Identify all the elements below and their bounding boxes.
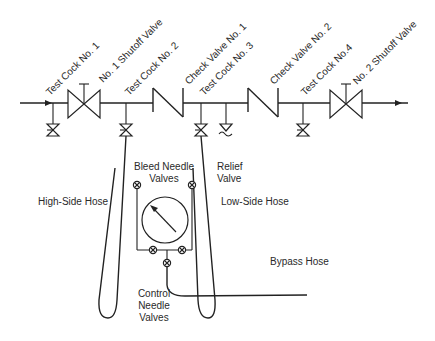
shutoff-valve-1-icon bbox=[68, 84, 100, 118]
backflow-test-diagram: Test Cock No. 1 No. 1 Shutoff Valve Test… bbox=[0, 0, 435, 341]
check-valve-1-icon bbox=[153, 88, 183, 117]
label-shutoff-valve-2: No. 2 Shutoff Valve bbox=[351, 18, 419, 86]
control-needle-valve-right-icon bbox=[178, 246, 185, 253]
control-needle-valve-center-icon bbox=[163, 259, 170, 266]
label-relief-valve-1: Relief bbox=[217, 161, 243, 172]
label-bleed-needle-1: Bleed Needle bbox=[134, 161, 194, 172]
control-needle-valve-left-icon bbox=[149, 246, 156, 253]
pressure-gauge-icon bbox=[142, 197, 188, 243]
label-shutoff-valve-1: No. 1 Shutoff Valve bbox=[97, 16, 165, 84]
relief-valve-icon bbox=[219, 103, 232, 136]
shutoff-valve-2-icon bbox=[330, 84, 362, 118]
label-control-needle-2: Needle bbox=[138, 300, 170, 311]
label-control-needle-3: Valves bbox=[139, 312, 168, 323]
label-control-needle-1: Control bbox=[138, 288, 170, 299]
test-cock-1-icon bbox=[47, 103, 59, 136]
bypass-hose bbox=[167, 267, 307, 296]
test-cock-4-icon bbox=[297, 103, 309, 136]
bleed-needle-valve-left-icon bbox=[133, 181, 140, 188]
bleed-needle-valve-right-icon bbox=[188, 181, 195, 188]
test-cock-3-icon bbox=[195, 103, 207, 136]
flow-arrow-out-icon bbox=[395, 100, 402, 106]
label-test-cock-1: Test Cock No. 1 bbox=[44, 39, 102, 97]
label-relief-valve-2: Valve bbox=[217, 173, 242, 184]
flow-arrow-in-icon bbox=[45, 100, 52, 106]
label-bypass-hose: Bypass Hose bbox=[270, 256, 329, 267]
test-cock-2-icon bbox=[120, 103, 132, 136]
check-valve-2-icon bbox=[248, 88, 278, 117]
low-side-hose bbox=[193, 136, 215, 318]
label-low-side-hose: Low-Side Hose bbox=[221, 196, 289, 207]
label-bleed-needle-2: Valves bbox=[149, 173, 178, 184]
label-high-side-hose: High-Side Hose bbox=[38, 196, 108, 207]
high-side-hose bbox=[99, 136, 126, 318]
